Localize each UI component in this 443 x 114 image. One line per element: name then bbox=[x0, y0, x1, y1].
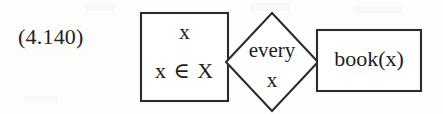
diamond-variable-label: x bbox=[226, 70, 318, 91]
quantifier-diamond-outline bbox=[226, 13, 318, 111]
left-box-condition: x ∈ X bbox=[141, 60, 228, 82]
left-box-variable: x bbox=[141, 22, 228, 43]
diamond-quantifier-label: every bbox=[226, 40, 318, 61]
right-box-predicate: book(x) bbox=[317, 48, 421, 70]
figure-canvas: (4.140) x x ∈ X every x book(x) bbox=[0, 0, 443, 114]
